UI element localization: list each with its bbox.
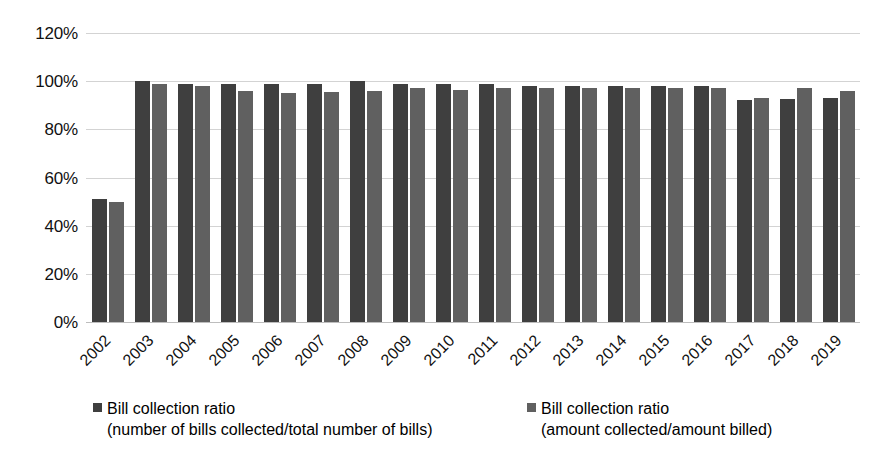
bar-2002-series0 — [92, 199, 107, 322]
bar-group-2008 — [344, 33, 387, 322]
legend-entry-bill-amount-ratio: Bill collection ratio (amount collected/… — [527, 398, 772, 440]
bar-group-2017 — [731, 33, 774, 322]
legend-swatch-icon-series0 — [93, 403, 102, 412]
bar-2007-series0 — [307, 84, 322, 322]
bar-2004-series1 — [195, 86, 210, 322]
bar-2003-series0 — [135, 81, 150, 322]
x-label-cell-2019: 2019 — [817, 322, 860, 384]
legend-label-series1-line2: (amount collected/amount billed) — [541, 419, 772, 440]
y-tick-label-100: 100% — [4, 73, 78, 90]
y-tick-label-60: 60% — [4, 170, 78, 187]
chart-legend: Bill collection ratio (number of bills c… — [0, 398, 881, 454]
bar-group-2010 — [430, 33, 473, 322]
legend-label-series0-line1: Bill collection ratio — [107, 400, 235, 417]
bar-2013-series1 — [582, 88, 597, 322]
bar-2010-series1 — [453, 90, 468, 322]
bar-2004-series0 — [178, 84, 193, 322]
bar-group-2014 — [602, 33, 645, 322]
legend-entry-bill-count-ratio: Bill collection ratio (number of bills c… — [93, 398, 432, 440]
bar-groups — [86, 33, 860, 322]
bar-2011-series0 — [479, 84, 494, 322]
bar-2007-series1 — [324, 92, 339, 322]
bar-group-2007 — [301, 33, 344, 322]
bar-chart: 120%100%80%60%40%20%0% 20022003200420052… — [0, 0, 881, 469]
bar-2017-series0 — [737, 100, 752, 322]
bar-2009-series0 — [393, 84, 408, 322]
y-tick-label-80: 80% — [4, 121, 78, 138]
y-tick-label-20: 20% — [4, 266, 78, 283]
bar-2010-series0 — [436, 84, 451, 322]
bar-group-2016 — [688, 33, 731, 322]
bar-group-2002 — [86, 33, 129, 322]
legend-label-series0: Bill collection ratio (number of bills c… — [107, 398, 432, 440]
bar-group-2009 — [387, 33, 430, 322]
bar-2014-series1 — [625, 88, 640, 322]
bar-2018-series0 — [780, 99, 795, 322]
bar-group-2012 — [516, 33, 559, 322]
bar-2013-series0 — [565, 86, 580, 322]
legend-label-series1: Bill collection ratio (amount collected/… — [541, 398, 772, 440]
x-tick-label-2002: 2002 — [77, 332, 113, 368]
bar-2006-series1 — [281, 93, 296, 322]
bar-2012-series0 — [522, 86, 537, 322]
legend-label-series1-line1: Bill collection ratio — [541, 400, 669, 417]
bar-group-2013 — [559, 33, 602, 322]
bar-2019-series1 — [840, 91, 855, 322]
bar-2009-series1 — [410, 88, 425, 322]
y-tick-label-40: 40% — [4, 218, 78, 235]
bar-group-2011 — [473, 33, 516, 322]
bar-group-2004 — [172, 33, 215, 322]
y-tick-label-0: 0% — [4, 314, 78, 331]
y-axis: 120%100%80%60%40%20%0% — [0, 33, 78, 322]
bar-group-2006 — [258, 33, 301, 322]
bar-group-2003 — [129, 33, 172, 322]
bar-group-2018 — [774, 33, 817, 322]
legend-label-series0-line2: (number of bills collected/total number … — [107, 419, 432, 440]
bar-2008-series1 — [367, 91, 382, 322]
bar-2005-series0 — [221, 84, 236, 322]
x-axis-labels: 2002200320042005200620072008200920102011… — [86, 322, 860, 384]
bar-group-2015 — [645, 33, 688, 322]
bar-2008-series0 — [350, 81, 365, 322]
bar-2012-series1 — [539, 88, 554, 322]
bar-2017-series1 — [754, 98, 769, 322]
bar-2015-series0 — [651, 86, 666, 322]
bar-2002-series1 — [109, 202, 124, 322]
bar-2014-series0 — [608, 86, 623, 322]
bar-2016-series0 — [694, 86, 709, 322]
legend-swatch-icon-series1 — [527, 403, 536, 412]
bar-group-2019 — [817, 33, 860, 322]
bar-2015-series1 — [668, 88, 683, 322]
bar-2018-series1 — [797, 88, 812, 322]
bar-2011-series1 — [496, 88, 511, 322]
bar-2006-series0 — [264, 84, 279, 322]
y-tick-label-120: 120% — [4, 25, 78, 42]
bar-2005-series1 — [238, 91, 253, 322]
bar-group-2005 — [215, 33, 258, 322]
bar-2019-series0 — [823, 98, 838, 322]
bar-2016-series1 — [711, 88, 726, 322]
bar-2003-series1 — [152, 84, 167, 322]
